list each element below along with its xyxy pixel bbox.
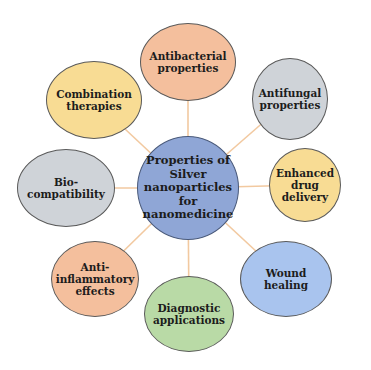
node-anti-inflammatory-effects: Anti- inflammatory effects [51, 241, 139, 317]
node-biocompatibility: Bio- compatibility [17, 149, 115, 227]
node-antibacterial-properties: Antibacterial properties [140, 23, 236, 101]
node-antifungal-properties: Antifungal properties [252, 58, 328, 140]
node-diagnostic-applications: Diagnostic applications [144, 276, 234, 352]
center-node: Properties of Silver nanoparticles for n… [137, 136, 239, 240]
node-combination-therapies: Combination therapies [46, 61, 142, 139]
node-wound-healing: Wound healing [240, 241, 332, 317]
node-enhanced-drug-delivery: Enhanced drug delivery [269, 148, 341, 222]
